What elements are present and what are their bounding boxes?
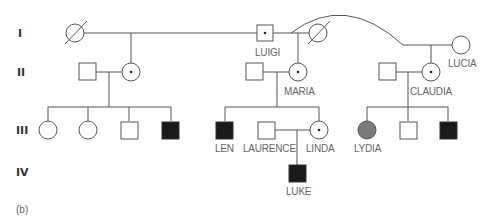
pedigree-chart: I II III IV LUIGI LUCIA bbox=[0, 0, 484, 223]
label-lucia: LUCIA bbox=[448, 58, 477, 69]
figure-caption: (b) bbox=[16, 204, 28, 215]
individual-lydia bbox=[358, 121, 376, 139]
generation-label-i: I bbox=[18, 27, 22, 40]
carrier-dot-icon bbox=[318, 129, 321, 132]
individual-gen1-deceased-female-left bbox=[65, 21, 87, 44]
label-claudia: CLAUDIA bbox=[410, 86, 452, 97]
generation-label-iv: IV bbox=[16, 166, 29, 179]
individual-gen2-male-left bbox=[79, 63, 96, 80]
individual-gen3-female-2 bbox=[79, 121, 97, 139]
individual-luigi bbox=[257, 25, 273, 41]
mating-arc-luigi-lucia bbox=[291, 15, 403, 45]
individual-maria bbox=[289, 63, 307, 81]
generation-label-iii: III bbox=[16, 124, 28, 137]
individual-gen2-male-maria-spouse bbox=[246, 63, 263, 80]
individual-gen3-male-claudia-son bbox=[400, 122, 417, 139]
label-luigi: LUIGI bbox=[255, 47, 280, 58]
individual-claudia bbox=[422, 63, 440, 81]
carrier-dot-icon bbox=[297, 71, 300, 74]
individual-lucia bbox=[452, 36, 470, 54]
individual-gen3-affected-male-4 bbox=[162, 122, 179, 139]
individual-gen3-female-1 bbox=[39, 121, 57, 139]
individual-gen3-affected-male-claudia-son bbox=[440, 122, 457, 139]
label-lydia: LYDIA bbox=[354, 143, 382, 154]
carrier-dot-icon bbox=[430, 71, 433, 74]
individual-luke bbox=[289, 165, 306, 182]
carrier-dot-icon bbox=[264, 32, 267, 35]
label-linda: LINDA bbox=[306, 143, 335, 154]
generation-label-ii: II bbox=[17, 66, 25, 79]
individual-gen2-male-claudia-spouse bbox=[379, 63, 396, 80]
label-luke: LUKE bbox=[286, 186, 312, 197]
individual-gen1-deceased-female-middle bbox=[308, 21, 330, 44]
label-maria: MARIA bbox=[284, 86, 315, 97]
individual-gen2-carrier-female-left bbox=[122, 63, 140, 81]
individual-linda bbox=[310, 121, 328, 139]
individual-laurence bbox=[258, 122, 275, 139]
label-len: LEN bbox=[215, 143, 234, 154]
individual-gen3-male-3 bbox=[121, 122, 138, 139]
label-laurence: LAURENCE bbox=[243, 143, 296, 154]
carrier-dot-icon bbox=[130, 71, 133, 74]
individual-len bbox=[216, 122, 233, 139]
